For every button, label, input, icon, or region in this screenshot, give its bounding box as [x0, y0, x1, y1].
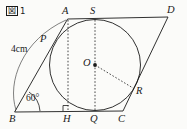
- center-point-dot: [93, 63, 97, 67]
- dashed-radius-O-to-R: [95, 65, 133, 88]
- side-length-label: 4cm: [11, 45, 27, 55]
- figure-caption: 図 1: [6, 6, 25, 16]
- angle-measure-label: 60°: [26, 94, 39, 104]
- point-label-S: S: [90, 6, 95, 17]
- figure-canvas: [0, 0, 187, 129]
- point-label-P: P: [40, 34, 46, 45]
- figure-caption-boxed-char: 図: [6, 6, 18, 16]
- geometry-figure: 図 1 A S D P O R B H Q C 4cm 60°: [0, 0, 187, 129]
- construction-lines: [68, 20, 133, 111]
- point-label-H: H: [63, 114, 71, 125]
- point-label-O: O: [83, 58, 91, 69]
- point-label-D: D: [167, 5, 175, 16]
- point-label-Q: Q: [90, 114, 98, 125]
- figure-caption-number: 1: [20, 6, 25, 16]
- point-label-R: R: [136, 86, 142, 97]
- point-label-A: A: [62, 6, 68, 17]
- point-label-C: C: [118, 114, 125, 125]
- point-label-B: B: [9, 114, 15, 125]
